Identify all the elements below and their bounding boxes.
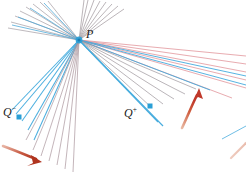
arrow-corner-faint	[231, 143, 246, 158]
ray-diagram-figure: P Q− Q+	[0, 0, 246, 172]
label-point-q-plus: Q+	[124, 105, 137, 121]
ray-bundle-lower-left-blue	[12, 40, 79, 140]
ray-diagram-canvas	[0, 0, 246, 172]
label-q-plus-superscript: +	[133, 105, 137, 114]
label-point-q-minus: Q−	[3, 104, 16, 120]
marker-q-minus	[17, 115, 22, 120]
ray-bundle-lower-right-gray	[79, 40, 196, 108]
arrow-right-red	[182, 88, 203, 128]
focal-point-p-node	[76, 37, 83, 44]
ray-q-plus-blue	[79, 40, 163, 126]
ray-corner-faint-blue	[222, 126, 246, 139]
ray-bundle-right-pink	[79, 40, 246, 98]
marker-q-plus	[148, 104, 153, 109]
arrow-lower-left-red	[3, 146, 42, 166]
label-point-p: P	[86, 27, 93, 42]
ray-bundle-lower-left-gray	[26, 40, 79, 172]
ray-bundle-upper-left-gray	[8, 1, 79, 40]
label-q-minus-superscript: −	[12, 104, 16, 113]
